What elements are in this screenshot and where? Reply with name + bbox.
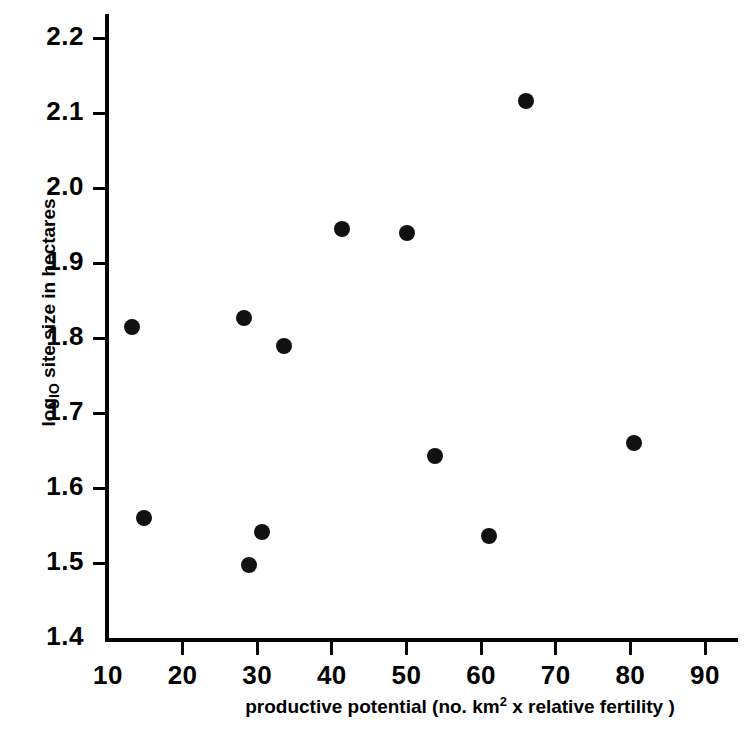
data-point xyxy=(276,338,292,354)
x-axis-tick-label: 80 xyxy=(605,660,655,691)
y-axis-tick xyxy=(93,412,105,415)
x-axis-tick-label: 60 xyxy=(456,660,506,691)
x-axis-tick-label: 20 xyxy=(158,660,208,691)
y-axis-tick xyxy=(93,262,105,265)
x-axis-tick xyxy=(405,642,408,655)
data-point xyxy=(254,524,270,540)
y-axis-tick xyxy=(93,562,105,565)
data-point xyxy=(236,310,252,326)
x-axis-tick xyxy=(480,642,483,655)
x-axis-tick xyxy=(256,642,259,655)
data-point xyxy=(136,510,152,526)
data-point xyxy=(399,225,415,241)
y-axis-tick-label: 1.5 xyxy=(26,546,84,577)
y-axis-tick-label: 1.4 xyxy=(26,621,84,652)
y-axis-tick xyxy=(93,337,105,340)
x-axis-tick-label: 30 xyxy=(232,660,282,691)
x-axis-tick xyxy=(330,642,333,655)
scatter-plot-figure: 1.41.51.61.71.81.92.02.12.2 102030405060… xyxy=(0,0,750,736)
data-point xyxy=(334,221,350,237)
x-axis-line xyxy=(105,638,738,642)
x-axis-tick xyxy=(554,642,557,655)
y-axis-tick-label: 2.1 xyxy=(26,96,84,127)
x-axis-tick-label: 70 xyxy=(531,660,581,691)
y-axis-title-subscript: IO xyxy=(46,383,62,398)
y-axis-tick-label: 1.6 xyxy=(26,471,84,502)
y-axis-tick-label: 2.2 xyxy=(26,21,84,52)
data-point xyxy=(427,448,443,464)
x-axis-tick xyxy=(704,642,707,655)
x-axis-title: productive potential (no. km2 x relative… xyxy=(180,694,740,718)
x-axis-tick-label: 40 xyxy=(307,660,357,691)
y-axis-title: logIO site size in hectares xyxy=(38,167,63,457)
data-point xyxy=(518,93,534,109)
y-axis-tick xyxy=(93,487,105,490)
y-axis-line xyxy=(105,14,109,642)
x-axis-title-superscript: 2 xyxy=(500,694,507,709)
y-axis-tick xyxy=(93,37,105,40)
x-axis-tick-label: 50 xyxy=(382,660,432,691)
x-axis-tick-label: 10 xyxy=(83,660,133,691)
data-point xyxy=(626,435,642,451)
data-point xyxy=(241,557,257,573)
y-axis-tick xyxy=(93,187,105,190)
y-axis-tick xyxy=(93,112,105,115)
data-point xyxy=(481,528,497,544)
x-axis-tick xyxy=(629,642,632,655)
x-axis-tick xyxy=(181,642,184,655)
x-axis-tick-label: 90 xyxy=(680,660,730,691)
data-point xyxy=(124,319,140,335)
